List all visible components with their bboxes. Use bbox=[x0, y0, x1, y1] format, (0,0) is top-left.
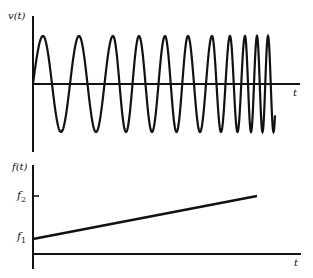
t-axis-label-top: t bbox=[293, 87, 298, 98]
f2-label: f2 bbox=[16, 189, 26, 204]
t-axis-label-bottom: t bbox=[294, 257, 299, 268]
bottom-panel: f(t) f2 f1 t bbox=[11, 161, 301, 269]
frequency-ramp bbox=[33, 196, 257, 239]
v-axis-label: v(t) bbox=[8, 10, 26, 21]
top-panel: v(t) t bbox=[8, 10, 300, 152]
f1-label: f1 bbox=[16, 230, 26, 245]
chirp-figure: v(t) t f(t) f2 f1 t bbox=[0, 0, 313, 278]
f-axis-label: f(t) bbox=[11, 161, 28, 172]
